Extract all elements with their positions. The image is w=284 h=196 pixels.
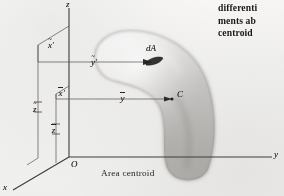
centroid-y-symbol: y bbox=[121, 93, 125, 103]
x-axis-line bbox=[13, 157, 69, 190]
element-z-label: ~z bbox=[33, 102, 37, 114]
element-base-line bbox=[27, 158, 38, 165]
body-text-line-1: differenti bbox=[218, 2, 284, 15]
figure-page: z y x O ~x′ ~y′ ~z dA x′ y z C Area cent… bbox=[0, 0, 284, 196]
centroid-x-prime: ′ bbox=[63, 89, 65, 98]
body-text-line-2: ments ab bbox=[218, 15, 284, 28]
element-y-label: ~y′ bbox=[91, 55, 97, 67]
y-axis-label: y bbox=[274, 150, 278, 159]
area-shape bbox=[95, 31, 214, 181]
centroid-y-label: y bbox=[120, 92, 125, 103]
centroid-point bbox=[171, 98, 174, 101]
element-y-prime: ′ bbox=[95, 58, 97, 67]
body-text-line-3: centroid bbox=[218, 27, 284, 40]
differential-area-label: dA bbox=[146, 44, 156, 53]
z-axis-label: z bbox=[66, 0, 70, 9]
element-x-label: ~x′ bbox=[48, 38, 54, 50]
element-x-prime: ′ bbox=[52, 41, 54, 50]
centroid-x-symbol: x bbox=[59, 88, 63, 98]
body-text-block: differenti ments ab centroid bbox=[218, 2, 284, 40]
element-z-symbol: z bbox=[33, 104, 37, 114]
centroid-z-symbol: z bbox=[52, 125, 56, 135]
element-x-symbol: x bbox=[48, 40, 52, 50]
element-y-symbol: y bbox=[91, 57, 95, 67]
origin-label: O bbox=[71, 160, 78, 169]
centroid-point-label: C bbox=[177, 90, 183, 99]
figure-caption: Area centroid bbox=[101, 168, 155, 178]
x-axis-label: x bbox=[3, 183, 7, 192]
centroid-x-label: x′ bbox=[58, 87, 65, 98]
centroid-z-label: z bbox=[51, 124, 56, 135]
